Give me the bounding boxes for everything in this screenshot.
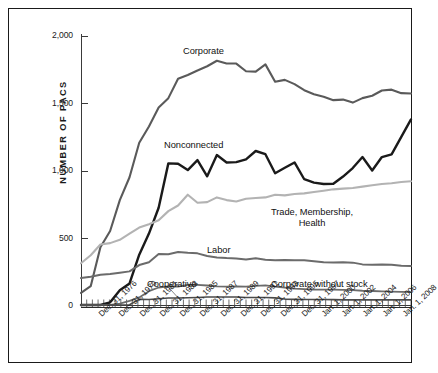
series-line-labor: [81, 252, 411, 278]
trade-label-line1: Trade, Membership,: [271, 207, 353, 217]
series-line-corporate: [81, 61, 411, 293]
series-line-nonconnected: [81, 119, 411, 305]
series-label-corporate: Corporate: [183, 46, 224, 56]
series-label-trade-membership-health: Trade, Membership, Health: [264, 207, 360, 228]
trade-label-line2: Health: [299, 218, 326, 228]
series-line-trade-membership-health: [81, 181, 411, 263]
series-label-labor: Labor: [207, 245, 231, 255]
figure-frame: NUMBER OF PACS 2,000 1,500 1,000 500 0 C…: [8, 8, 412, 363]
series-label-nonconnected: Nonconnected: [164, 140, 223, 150]
